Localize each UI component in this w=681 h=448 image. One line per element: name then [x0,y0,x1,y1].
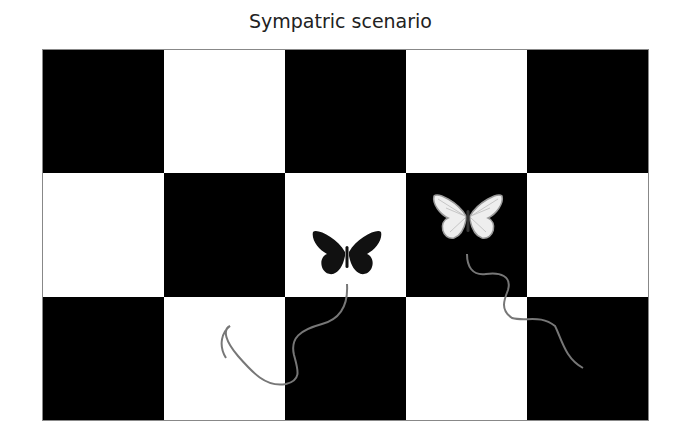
board-cell-r2-c1 [43,173,164,296]
board-cell-r2-c5 [527,173,648,296]
board-cell-r1-c2 [164,50,285,173]
board-cell-r1-c4 [406,50,527,173]
board-cell-r3-c2 [164,297,285,420]
board-cell-r2-c4 [406,173,527,296]
board-cell-r3-c4 [406,297,527,420]
board-cell-r3-c5 [527,297,648,420]
figure-title: Sympatric scenario [0,10,681,32]
board-cell-r3-c3 [285,297,406,420]
board-cell-r1-c5 [527,50,648,173]
board-cell-r1-c3 [285,50,406,173]
board-cell-r1-c1 [43,50,164,173]
checkerboard [42,49,649,421]
board-cell-r3-c1 [43,297,164,420]
board-cell-r2-c3 [285,173,406,296]
board-cell-r2-c2 [164,173,285,296]
